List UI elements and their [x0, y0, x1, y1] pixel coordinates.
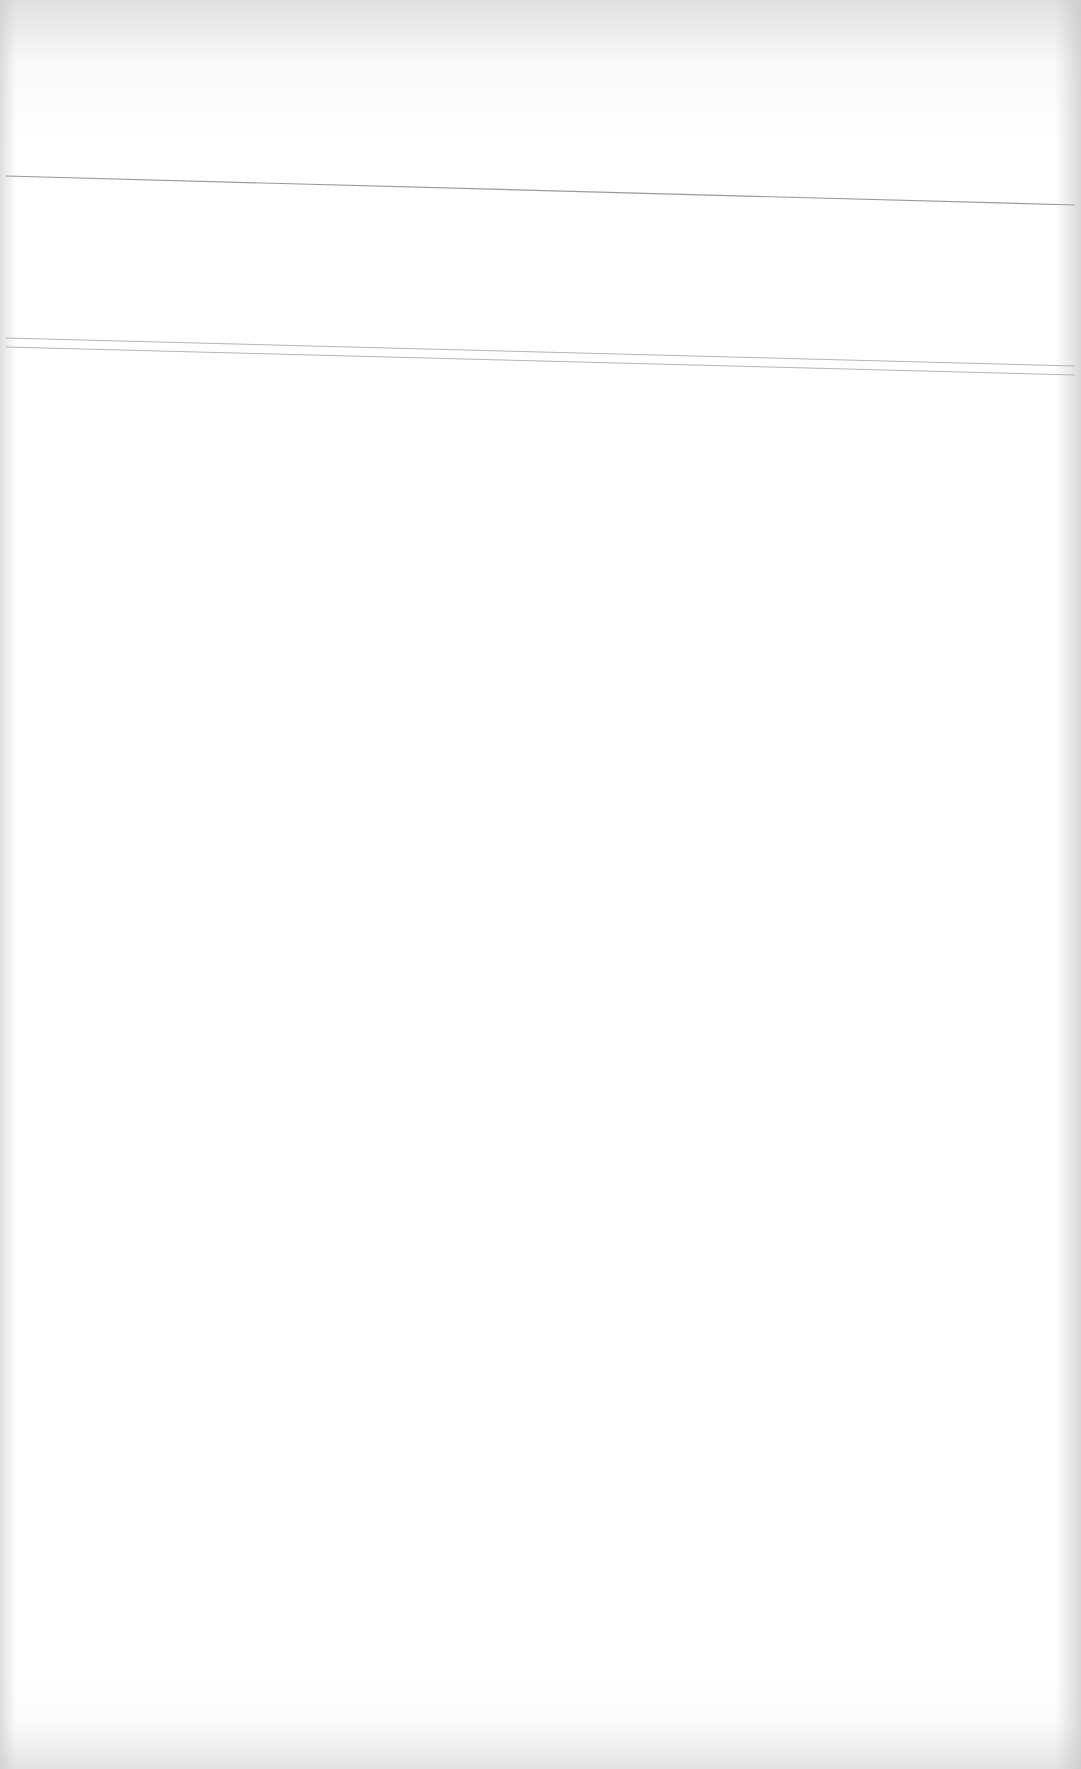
scanned-page	[0, 0, 1081, 1769]
horizontal-rules	[0, 0, 1081, 1769]
double-rule-lower	[6, 347, 1075, 375]
double-rule-upper	[6, 338, 1075, 366]
single-rule	[6, 176, 1075, 205]
